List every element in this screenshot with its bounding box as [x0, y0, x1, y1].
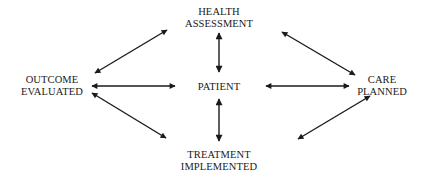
arrow-health-care [282, 32, 355, 75]
node-outcome-evaluated-line2: EVALUATED [21, 86, 83, 98]
arrow-outcome-health [95, 30, 167, 73]
node-treatment-implemented: TREATMENT IMPLEMENTED [181, 149, 257, 173]
arrow-treatment-outcome [92, 93, 166, 138]
node-outcome-evaluated: OUTCOME EVALUATED [21, 74, 83, 98]
node-outcome-evaluated-line1: OUTCOME [21, 74, 83, 86]
node-treatment-implemented-line2: IMPLEMENTED [181, 161, 257, 173]
node-patient-label: PATIENT [198, 81, 240, 93]
node-treatment-implemented-line1: TREATMENT [181, 149, 257, 161]
node-care-planned: CARE PLANNED [357, 74, 407, 98]
node-health-assessment-line1: HEALTH [185, 6, 253, 18]
node-care-planned-line1: CARE [357, 74, 407, 86]
node-health-assessment: HEALTH ASSESSMENT [185, 6, 253, 30]
node-health-assessment-line2: ASSESSMENT [185, 18, 253, 30]
node-care-planned-line2: PLANNED [357, 86, 407, 98]
nursing-process-diagram: HEALTH ASSESSMENT PATIENT OUTCOME EVALUA… [0, 0, 428, 181]
arrow-care-treatment [298, 96, 370, 139]
node-patient: PATIENT [198, 81, 240, 93]
